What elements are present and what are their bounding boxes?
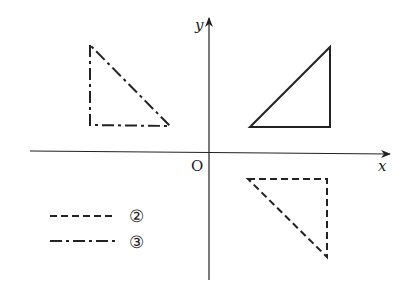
x-axis (30, 151, 390, 154)
triangle-dashed (248, 179, 327, 257)
x-axis-label: x (378, 157, 387, 175)
legend-label-2: ② (129, 206, 144, 226)
y-axis-label: y (194, 16, 204, 34)
triangle-solid (250, 47, 330, 127)
legend: ② ③ (50, 206, 144, 252)
coordinate-diagram: y x O ② ③ (0, 0, 411, 295)
origin-label: O (191, 157, 203, 175)
legend-label-3: ③ (129, 232, 144, 252)
triangle-dash-dot (90, 45, 170, 126)
